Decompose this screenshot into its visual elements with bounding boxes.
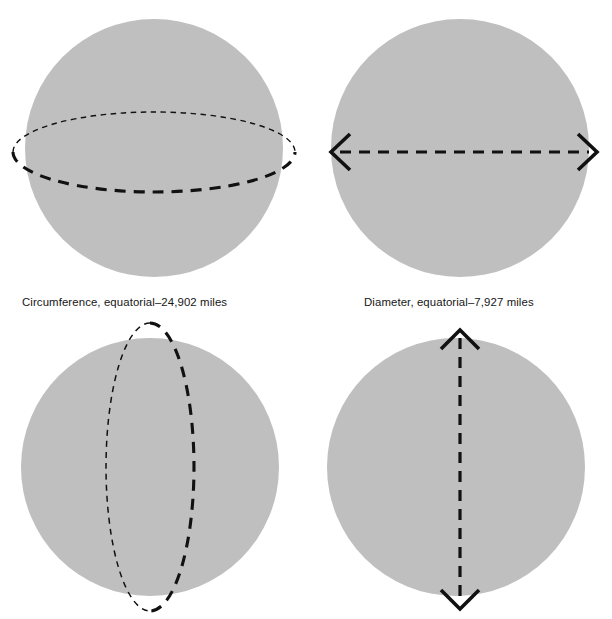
sphere-shape [327,338,585,596]
sphere-with-equatorial-circle-graphic [0,0,306,290]
sphere-shape [25,19,283,277]
sphere-with-vertical-arrow-graphic [306,320,612,619]
sphere-with-horizontal-arrow-graphic [306,0,612,290]
panel-circumference-polar [0,320,306,619]
panel-diameter-equatorial [306,0,612,290]
panel-diameter-polar [306,320,612,619]
caption-diameter-equatorial: Diameter, equatorial–7,927 miles [364,296,534,308]
sphere-with-meridian-circle-graphic [0,320,306,619]
sphere-shape [21,338,279,596]
panel-circumference-equatorial [0,0,306,290]
earth-dimensions-figure: Circumference, equatorial–24,902 miles D… [0,0,612,619]
sphere-shape [331,19,589,277]
caption-circumference-equatorial: Circumference, equatorial–24,902 miles [22,296,227,308]
